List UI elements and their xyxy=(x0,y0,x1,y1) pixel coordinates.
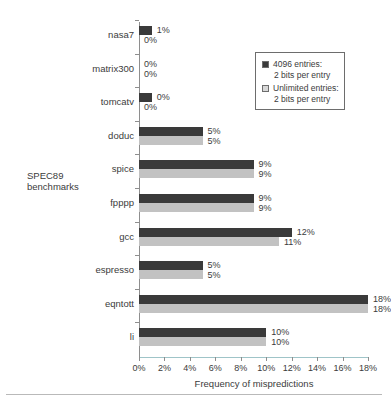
y-axis-label-eqntott: eqntott xyxy=(14,299,134,309)
x-axis-tick xyxy=(343,357,344,361)
y-axis-tick xyxy=(135,222,139,223)
bar-value-eqntott-limited: 18% xyxy=(373,295,391,304)
y-axis-tick xyxy=(135,322,139,323)
bar-li-unlimited xyxy=(139,337,266,346)
y-axis-label-tomcatv: tomcatv xyxy=(14,97,134,107)
y-axis-tick xyxy=(135,121,139,122)
bar-doduc-limited xyxy=(139,127,203,136)
legend-swatch-light-icon xyxy=(262,85,269,92)
y-axis-label-doduc: doduc xyxy=(14,131,134,141)
bar-fpppp-unlimited xyxy=(139,203,254,212)
y-axis-label-matrix300: matrix300 xyxy=(14,64,134,74)
legend-entry-unlimited-line1: Unlimited entries: xyxy=(273,83,339,93)
y-axis-tick xyxy=(135,54,139,55)
x-axis-tick xyxy=(139,357,140,361)
x-axis-tick xyxy=(266,357,267,361)
x-axis-tick-label: 0% xyxy=(132,363,145,373)
y-axis-tick xyxy=(135,255,139,256)
bar-doduc-unlimited xyxy=(139,136,203,145)
bar-eqntott-limited xyxy=(139,295,368,304)
bar-li-limited xyxy=(139,328,266,337)
bar-value-spice-unlimited: 9% xyxy=(259,170,272,179)
y-axis-tick xyxy=(135,87,139,88)
y-axis-tick xyxy=(135,20,139,21)
bar-value-doduc-unlimited: 5% xyxy=(208,137,221,146)
x-axis-tick-label: 8% xyxy=(234,363,247,373)
x-axis-tick-label: 14% xyxy=(308,363,326,373)
x-axis-tick-label: 16% xyxy=(334,363,352,373)
bar-value-espresso-unlimited: 5% xyxy=(208,271,221,280)
bar-gcc-limited xyxy=(139,228,292,237)
y-axis-tick xyxy=(135,289,139,290)
bar-value-doduc-limited: 5% xyxy=(208,127,221,136)
y-axis-label-nasa7: nasa7 xyxy=(14,30,134,40)
page-scan-rule xyxy=(6,394,382,395)
bar-value-eqntott-unlimited: 18% xyxy=(373,305,391,314)
legend-entry-unlimited-line2: 2 bits per entry xyxy=(274,94,339,105)
bar-spice-limited xyxy=(139,160,254,169)
x-axis-tick-label: 6% xyxy=(209,363,222,373)
bar-value-tomcatv-unlimited: 0% xyxy=(144,103,157,112)
bar-espresso-unlimited xyxy=(139,270,203,279)
bar-value-spice-limited: 9% xyxy=(259,160,272,169)
x-axis-tick xyxy=(292,357,293,361)
legend-entry-4096: 4096 entries: 2 bits per entry xyxy=(262,59,330,81)
y-axis-label-spice: spice xyxy=(14,164,134,174)
y-axis-title-line2: benchmarks xyxy=(27,181,97,192)
bar-value-gcc-limited: 12% xyxy=(297,228,315,237)
y-axis-tick xyxy=(135,154,139,155)
x-axis-tick xyxy=(317,357,318,361)
chart-legend: 4096 entries: 2 bits per entry Unlimited… xyxy=(255,52,345,110)
x-axis-tick-label: 12% xyxy=(283,363,301,373)
legend-swatch-dark-icon xyxy=(262,61,269,68)
bar-espresso-limited xyxy=(139,261,203,270)
x-axis-tick xyxy=(215,357,216,361)
bar-value-matrix300-limited: 0% xyxy=(144,60,157,69)
x-axis-tick xyxy=(241,357,242,361)
bar-value-nasa7-unlimited: 0% xyxy=(144,36,157,45)
bar-value-nasa7-limited: 1% xyxy=(157,26,170,35)
bar-fpppp-limited xyxy=(139,194,254,203)
x-axis-tick-label: 18% xyxy=(359,363,377,373)
bar-nasa7-limited xyxy=(139,26,152,35)
x-axis-tick xyxy=(368,357,369,361)
bar-value-li-unlimited: 10% xyxy=(271,338,289,347)
bar-value-espresso-limited: 5% xyxy=(208,261,221,270)
bar-gcc-unlimited xyxy=(139,237,279,246)
bar-eqntott-unlimited xyxy=(139,304,368,313)
x-axis-tick-label: 10% xyxy=(257,363,275,373)
legend-entry-4096-line2: 2 bits per entry xyxy=(274,70,330,81)
x-axis-tick xyxy=(164,357,165,361)
y-axis-label-espresso: espresso xyxy=(14,265,134,275)
bar-value-fpppp-unlimited: 9% xyxy=(259,204,272,213)
legend-entry-4096-line1: 4096 entries: xyxy=(273,59,322,69)
y-axis-label-li: li xyxy=(14,332,134,342)
bar-value-tomcatv-limited: 0% xyxy=(157,93,170,102)
y-axis-label-fpppp: fpppp xyxy=(14,198,134,208)
y-axis-tick xyxy=(135,188,139,189)
x-axis-tick-label: 4% xyxy=(183,363,196,373)
bar-value-gcc-unlimited: 11% xyxy=(284,238,301,247)
bar-value-matrix300-unlimited: 0% xyxy=(144,70,157,79)
x-axis-tick xyxy=(190,357,191,361)
bar-value-fpppp-limited: 9% xyxy=(259,194,272,203)
x-axis-title: Frequency of mispredictions xyxy=(139,378,369,389)
bar-spice-unlimited xyxy=(139,169,254,178)
legend-entry-unlimited: Unlimited entries: 2 bits per entry xyxy=(262,83,339,105)
bar-value-li-limited: 10% xyxy=(271,328,289,337)
x-axis-tick-label: 2% xyxy=(158,363,171,373)
y-axis-label-gcc: gcc xyxy=(14,232,134,242)
bar-tomcatv-limited xyxy=(139,93,152,102)
